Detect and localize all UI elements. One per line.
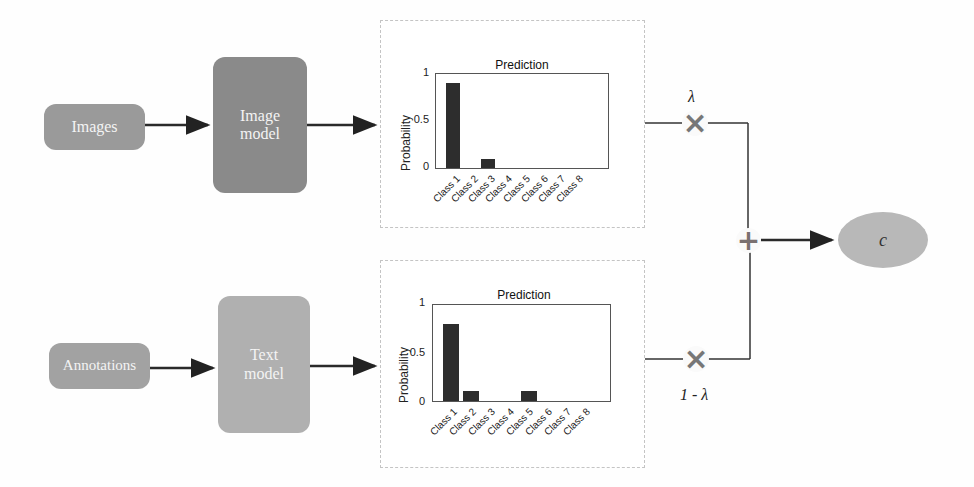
ytick-0.5: 0.5 (409, 113, 429, 125)
bar-class-2 (463, 391, 479, 401)
bar-class-3 (481, 159, 495, 168)
ytick-0: 0 (405, 395, 425, 407)
ytick-0: 0 (409, 160, 429, 172)
images-node: Images (44, 104, 145, 150)
text-prediction-chart: Prediction Probability 1 0.5 0 Class 1 C… (380, 260, 645, 468)
plot-area (432, 304, 611, 402)
chart-title: Prediction (433, 288, 615, 302)
bar-class-1 (446, 83, 460, 168)
output-class-node: c (838, 212, 928, 268)
image-model-label-line1: Image (240, 107, 280, 125)
image-prediction-chart: Prediction Probability 1 0.5 0 Class 1 C… (380, 20, 645, 228)
ytick-1: 1 (405, 296, 425, 308)
bar-class-5 (521, 391, 537, 401)
annotations-node: Annotations (49, 343, 150, 389)
plot-area (435, 73, 609, 169)
chart-title: Prediction (436, 58, 608, 72)
bar-class-1 (443, 324, 459, 401)
one-minus-lambda-weight-label: 1 - λ (680, 386, 708, 404)
annotations-label: Annotations (63, 357, 136, 374)
text-model-label-line2: model (244, 365, 284, 383)
multiply-icon: × (682, 110, 708, 136)
image-model-node: Image model (213, 57, 307, 193)
images-label: Images (71, 118, 117, 136)
ytick-0.5: 0.5 (405, 346, 425, 358)
lambda-weight-label: λ (688, 88, 695, 106)
multiply-icon: × (683, 346, 709, 372)
text-model-node: Text model (218, 296, 310, 433)
image-model-label-line2: model (240, 125, 280, 143)
ytick-1: 1 (409, 66, 429, 78)
output-label: c (879, 230, 887, 251)
text-model-label-line1: Text (250, 346, 278, 364)
sum-icon: + (736, 228, 761, 253)
